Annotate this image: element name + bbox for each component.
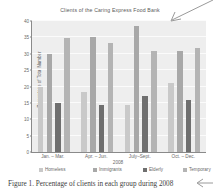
bar	[186, 100, 192, 152]
figure-container: Clients of the Caring Express Food Bank …	[0, 0, 217, 196]
y-axis-tick-label: 40	[17, 19, 29, 24]
bar	[108, 43, 114, 152]
legend-swatch-icon	[39, 168, 43, 172]
legend-label: Temporary	[189, 167, 211, 172]
legend-item[interactable]: Homeless	[39, 167, 65, 172]
bar	[64, 38, 70, 152]
chart-title: Clients of the Caring Express Food Bank	[30, 7, 190, 13]
bar	[99, 105, 105, 152]
legend-swatch-icon	[143, 168, 147, 172]
bar	[177, 51, 183, 152]
y-axis-tick-labels: 0510152025303540	[14, 21, 29, 152]
bar	[134, 26, 140, 152]
y-axis-tick-label: 30	[17, 51, 29, 56]
bar	[55, 103, 61, 152]
bar-group	[76, 21, 120, 152]
bar	[90, 37, 96, 152]
bar	[125, 105, 131, 152]
y-axis-tick-label: 5	[17, 133, 29, 138]
bar-group	[119, 21, 163, 152]
bar-group	[163, 21, 207, 152]
figure-caption: Figure 1. Percentage of clients in each …	[8, 180, 188, 188]
bar	[38, 87, 44, 153]
bar	[195, 48, 201, 152]
chart-legend: HomelessImmigrantsElderlyTemporary	[31, 167, 211, 176]
y-axis-tick-label: 10	[17, 117, 29, 122]
plot-area: Percentage of Total Number	[31, 21, 206, 153]
arrow-left-icon	[195, 178, 215, 188]
legend-item[interactable]: Immigrants	[93, 167, 122, 172]
x-axis-tick-label: Oct. – Dec.	[172, 154, 195, 159]
x-axis-tick-label: Apr. – Jun.	[85, 154, 107, 159]
y-axis-tick-label: 0	[17, 150, 29, 155]
y-axis-tick-label: 35	[17, 35, 29, 40]
bar	[142, 96, 148, 152]
x-axis-title: 2008	[31, 160, 205, 165]
legend-swatch-icon	[183, 168, 187, 172]
bar	[151, 51, 157, 152]
bar-group	[32, 21, 76, 152]
x-axis-tick-label: July–Sept.	[129, 154, 151, 159]
legend-item[interactable]: Elderly	[143, 167, 163, 172]
legend-item[interactable]: Temporary	[183, 167, 211, 172]
y-axis-tick-label: 25	[17, 68, 29, 73]
x-axis-tick-label: Jan. – Mar.	[41, 154, 64, 159]
y-axis-tick-label: 20	[17, 84, 29, 89]
legend-label: Elderly	[149, 167, 163, 172]
legend-label: Immigrants	[99, 167, 122, 172]
legend-swatch-icon	[93, 168, 97, 172]
bar	[81, 92, 87, 152]
y-axis-tick-label: 15	[17, 100, 29, 105]
legend-label: Homeless	[45, 167, 65, 172]
bar	[47, 54, 53, 152]
bar	[168, 83, 174, 152]
